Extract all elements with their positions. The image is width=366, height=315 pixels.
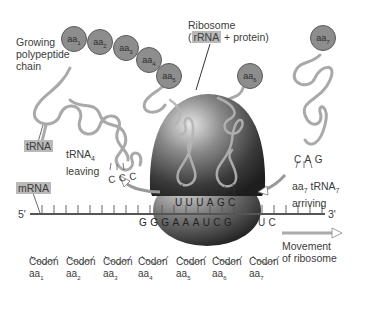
movement-label: Movement of ribosome <box>282 240 337 264</box>
mrna-label: mRNA <box>16 182 51 194</box>
rrna-highlight: rRNA <box>192 31 222 43</box>
amino-acid-3: aa3 <box>113 35 139 61</box>
codon-1: Codonaa1 <box>29 256 65 284</box>
amino-acid-2: aa2 <box>87 29 113 55</box>
ribosome-label: Ribosome (rRNA + protein) <box>188 19 269 43</box>
amino-acid-6: aa6 <box>237 63 263 89</box>
trna-label: tRNA <box>24 140 53 152</box>
five-prime-label: 5' <box>18 208 26 220</box>
ribosome-large-subunit <box>150 94 265 196</box>
growing-chain-label: Growing polypeptide chain <box>16 36 70 72</box>
codon-3: Codonaa3 <box>103 256 139 284</box>
amino-acid-5: aa5 <box>156 63 182 89</box>
codon-6: Codonaa6 <box>212 256 248 284</box>
amino-acid-7: aa7 <box>310 25 336 51</box>
trna7-arriving-strand <box>294 55 332 144</box>
codon-5: Codonaa5 <box>176 256 212 284</box>
codon-7: Codonaa7 <box>249 256 285 284</box>
mrna-sequence-tail: UC <box>258 217 279 228</box>
mrna-sequence: GGGAAAUCG <box>139 217 235 228</box>
ribosome-anticodons: UUUAGC <box>175 197 239 208</box>
three-prime-label: 3' <box>328 208 336 220</box>
codon-2: Codonaa2 <box>66 256 102 284</box>
translation-diagram: aa1 aa2 aa3 aa4 aa5 aa6 aa7 Growing poly… <box>0 0 366 315</box>
trna4-leaving-label: tRNA4 leaving <box>66 148 99 177</box>
arriving-anticodon: CAG <box>294 154 326 165</box>
codon-4: Codonaa4 <box>138 256 174 284</box>
aa7-arriving-label: aa7 tRNA7 arriving <box>292 180 340 209</box>
